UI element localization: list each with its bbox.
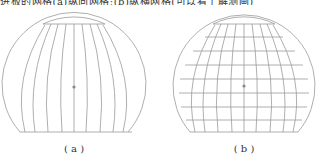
figure-a-label: ( a ) (54, 143, 94, 154)
figure-b-grid (173, 15, 315, 132)
diagram-canvas (0, 0, 318, 164)
figure-b-label: ( b ) (224, 143, 264, 154)
center-dot-a (72, 85, 75, 88)
center-dot-b (242, 84, 245, 87)
figure-a-grid (2, 12, 146, 132)
